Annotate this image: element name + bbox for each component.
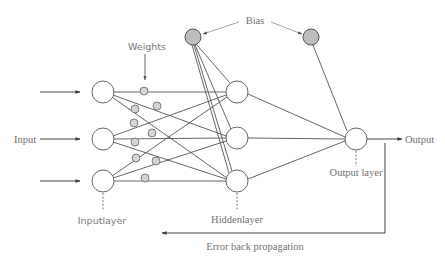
input-label: Input [14, 134, 36, 145]
hidden-layer [226, 81, 248, 192]
input-layer-label: Inputlayer [78, 215, 127, 226]
weight-marker [130, 119, 138, 127]
weight-marker [148, 129, 156, 137]
output-node [345, 128, 367, 150]
weight-marker [132, 154, 140, 162]
bias-pointer-left [203, 22, 239, 34]
bias-pointer-right [271, 22, 302, 34]
error-back-propagation-arrow [162, 143, 385, 233]
weight-marker [131, 105, 139, 113]
neural-network-diagram: Weights Bias Input Output Inputlayer Hid… [0, 0, 445, 267]
bias-hidden-connections [192, 44, 232, 173]
bias-node-output [303, 29, 319, 45]
weight-marker [141, 174, 149, 182]
weights-label: Weights [128, 41, 166, 52]
weight-marker [153, 102, 161, 110]
bias-node-hidden [185, 29, 201, 45]
output-layer-label: Output layer [330, 167, 383, 178]
hidden-layer-label: Hiddenlayer [211, 214, 263, 225]
hidden-node-3 [226, 170, 248, 192]
output-label: Output [405, 134, 434, 145]
weight-marker [152, 157, 160, 165]
input-node-1 [92, 81, 114, 103]
hidden-output-connections [248, 45, 347, 179]
weight-marker [131, 138, 139, 146]
input-node-2 [92, 128, 114, 150]
weight-marker [140, 87, 148, 95]
bias-label: Bias [246, 15, 265, 26]
error-back-propagation-label: Error back propagation [206, 241, 304, 252]
hidden-node-2 [226, 127, 248, 149]
input-arrows [40, 92, 80, 181]
input-node-3 [92, 170, 114, 192]
hidden-node-1 [226, 81, 248, 103]
input-layer [92, 81, 114, 192]
